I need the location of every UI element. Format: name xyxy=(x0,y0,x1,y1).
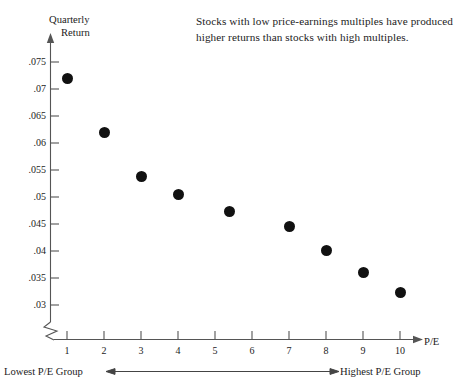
footer-label-lowest: Lowest P/E Group xyxy=(4,366,83,377)
data-point xyxy=(224,206,235,217)
x-tick-label: 3 xyxy=(129,345,153,356)
footer-label-highest: Highest P/E Group xyxy=(340,366,421,377)
x-tick-label: 1 xyxy=(55,345,79,356)
chart-axes xyxy=(0,0,459,392)
y-tick-label: .055 xyxy=(12,164,46,175)
data-point xyxy=(62,73,73,84)
x-tick-label: 2 xyxy=(92,345,116,356)
footer-range-arrow-icon xyxy=(106,369,339,375)
y-axis-arrow-icon xyxy=(47,33,54,43)
x-tick-label: 6 xyxy=(240,345,264,356)
y-tick-label: .07 xyxy=(12,83,46,94)
x-tick-label: 8 xyxy=(314,345,338,356)
x-tick-label: 5 xyxy=(203,345,227,356)
data-point xyxy=(321,245,332,256)
x-axis-arrow-icon xyxy=(413,336,423,343)
x-tick-label: 4 xyxy=(166,345,190,356)
y-tick-label: .05 xyxy=(12,191,46,202)
data-point xyxy=(358,267,369,278)
x-tick-label: 7 xyxy=(277,345,301,356)
y-tick-label: .06 xyxy=(12,137,46,148)
data-point xyxy=(136,171,147,182)
axis-break-icon xyxy=(44,322,57,340)
data-point xyxy=(284,221,295,232)
y-tick-label: .045 xyxy=(12,218,46,229)
data-point xyxy=(395,287,406,298)
x-axis-ticks xyxy=(67,331,400,340)
x-tick-label: 10 xyxy=(388,345,412,356)
y-axis-ticks xyxy=(51,62,60,305)
data-point xyxy=(173,189,184,200)
data-point xyxy=(99,127,110,138)
scatter-chart: Stocks with low price-earnings multiples… xyxy=(0,0,459,392)
x-tick-label: 9 xyxy=(351,345,375,356)
y-tick-label: .04 xyxy=(12,245,46,256)
y-tick-label: .065 xyxy=(12,110,46,121)
y-tick-label: .035 xyxy=(12,272,46,283)
y-tick-label: .03 xyxy=(12,299,46,310)
y-tick-label: .075 xyxy=(12,56,46,67)
